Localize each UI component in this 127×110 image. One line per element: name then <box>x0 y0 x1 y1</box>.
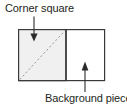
background-piece-label: Background piece <box>45 92 127 104</box>
corner-square-label: Corner square <box>5 2 74 14</box>
corner-square-diagram: Corner square Background piece <box>0 0 127 110</box>
